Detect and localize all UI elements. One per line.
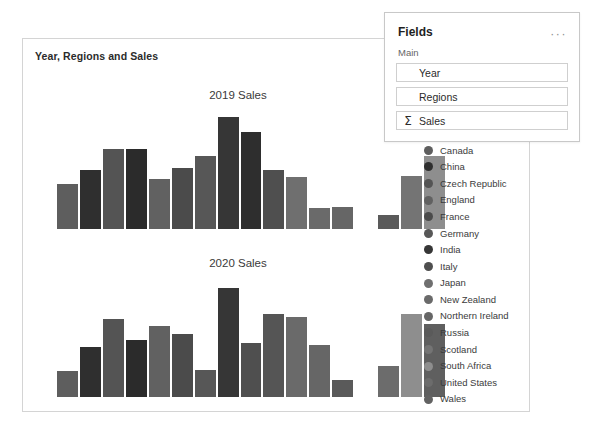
bar-new-zealand[interactable] (263, 111, 284, 229)
bar-gap (355, 279, 376, 397)
legend-swatch-icon (424, 295, 433, 304)
bar-england[interactable] (126, 111, 147, 229)
bar-rect (263, 314, 284, 397)
bar-canada[interactable] (57, 111, 78, 229)
legend-swatch-icon (424, 262, 433, 271)
bar-germany[interactable] (172, 279, 193, 397)
bar-rect (218, 288, 239, 397)
bar-series-2020 (57, 279, 445, 397)
bar-northern-ireland[interactable] (286, 111, 307, 229)
bar-rect (172, 334, 193, 397)
legend-swatch-icon (424, 196, 433, 205)
sigma-aggregate-icon: Σ (397, 114, 419, 128)
bar-china[interactable] (80, 111, 101, 229)
legend-swatch-icon (424, 362, 433, 371)
bar-france[interactable] (149, 279, 170, 397)
legend-label: India (440, 245, 461, 255)
chart-legend[interactable]: CanadaChinaCzech RepublicEnglandFranceGe… (424, 142, 544, 408)
bar-new-zealand[interactable] (263, 279, 284, 397)
bar-rect (241, 343, 262, 397)
legend-swatch-icon (424, 245, 433, 254)
bar-rect (57, 184, 78, 229)
legend-item-china[interactable]: China (424, 159, 544, 176)
legend-label: South Africa (440, 361, 491, 371)
bar-rect (103, 319, 124, 397)
bar-rect (126, 149, 147, 229)
page-title: Year, Regions and Sales (35, 50, 158, 62)
bar-czech-republic[interactable] (103, 279, 124, 397)
legend-swatch-icon (424, 395, 433, 404)
legend-item-wales[interactable]: Wales (424, 391, 544, 408)
bar-france[interactable] (149, 111, 170, 229)
bar-rect (332, 207, 353, 229)
field-label: Sales (419, 115, 445, 127)
legend-item-united-states[interactable]: United States (424, 374, 544, 391)
legend-item-scotland[interactable]: Scotland (424, 341, 544, 358)
legend-item-germany[interactable]: Germany (424, 225, 544, 242)
fields-panel-title: Fields (398, 25, 433, 39)
legend-label: New Zealand (440, 295, 496, 305)
bar-italy[interactable] (218, 279, 239, 397)
field-item-sales[interactable]: Σ Sales (396, 111, 568, 130)
bar-northern-ireland[interactable] (286, 279, 307, 397)
field-item-regions[interactable]: Regions (396, 87, 568, 106)
legend-label: Canada (440, 146, 473, 156)
legend-item-russia[interactable]: Russia (424, 325, 544, 342)
bar-india[interactable] (195, 111, 216, 229)
more-options-icon[interactable]: ··· (550, 28, 567, 40)
bar-russia[interactable] (309, 111, 330, 229)
bar-italy[interactable] (218, 111, 239, 229)
legend-label: Japan (440, 278, 466, 288)
bar-rect (286, 317, 307, 397)
bar-rect (241, 132, 262, 229)
legend-label: Italy (440, 262, 457, 272)
bar-scotland[interactable] (332, 111, 353, 229)
bar-rect (218, 117, 239, 229)
legend-item-czech-republic[interactable]: Czech Republic (424, 175, 544, 192)
legend-item-india[interactable]: India (424, 242, 544, 259)
bar-rect (80, 347, 101, 397)
bar-rect (195, 370, 216, 397)
bar-scotland[interactable] (332, 279, 353, 397)
bar-united-states[interactable] (401, 279, 422, 397)
bar-japan[interactable] (241, 111, 262, 229)
bar-germany[interactable] (172, 111, 193, 229)
legend-swatch-icon (424, 312, 433, 321)
legend-label: United States (440, 378, 497, 388)
legend-swatch-icon (424, 229, 433, 238)
bar-japan[interactable] (241, 279, 262, 397)
bar-england[interactable] (126, 279, 147, 397)
legend-label: China (440, 162, 465, 172)
bar-canada[interactable] (57, 279, 78, 397)
legend-swatch-icon (424, 279, 433, 288)
bar-china[interactable] (80, 279, 101, 397)
legend-label: Czech Republic (440, 179, 507, 189)
legend-swatch-icon (424, 378, 433, 387)
field-item-year[interactable]: Year (396, 63, 568, 82)
bar-czech-republic[interactable] (103, 111, 124, 229)
legend-item-japan[interactable]: Japan (424, 275, 544, 292)
bar-rect (172, 168, 193, 229)
legend-item-france[interactable]: France (424, 208, 544, 225)
bar-russia[interactable] (309, 279, 330, 397)
legend-item-italy[interactable]: Italy (424, 258, 544, 275)
plot-area-2020 (57, 279, 445, 397)
bar-india[interactable] (195, 279, 216, 397)
legend-label: Russia (440, 328, 469, 338)
bar-rect (103, 149, 124, 229)
bar-rect (149, 326, 170, 397)
bar-rect (126, 340, 147, 397)
bar-rect (263, 170, 284, 229)
legend-item-south-africa[interactable]: South Africa (424, 358, 544, 375)
bar-rect (401, 176, 422, 229)
bar-rect (286, 177, 307, 229)
legend-label: France (440, 212, 470, 222)
chart-title-2020: 2020 Sales (23, 257, 453, 269)
bar-rect (378, 215, 399, 229)
fields-panel[interactable]: Fields ··· Main Year Regions Σ Sales (384, 12, 580, 142)
legend-item-northern-ireland[interactable]: Northern Ireland (424, 308, 544, 325)
legend-item-new-zealand[interactable]: New Zealand (424, 291, 544, 308)
legend-item-canada[interactable]: Canada (424, 142, 544, 159)
legend-item-england[interactable]: England (424, 192, 544, 209)
bar-south-africa[interactable] (378, 279, 399, 397)
